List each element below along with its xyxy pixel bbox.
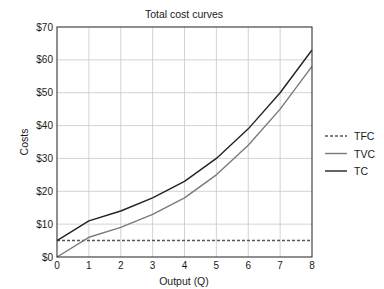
y-tick-label: $40 bbox=[36, 120, 53, 131]
legend-label-tfc: TFC bbox=[354, 130, 375, 142]
y-tick-label: $20 bbox=[36, 186, 53, 197]
x-tick-label: 1 bbox=[86, 260, 92, 271]
x-tick-label: 5 bbox=[214, 260, 220, 271]
x-axis-label: Output (Q) bbox=[159, 275, 209, 287]
x-tick-label: 8 bbox=[309, 260, 315, 271]
x-axis-ticks: 012345678 bbox=[54, 260, 315, 271]
y-tick-label: $0 bbox=[42, 252, 54, 263]
y-axis-label: Costs bbox=[18, 129, 30, 156]
x-tick-label: 2 bbox=[118, 260, 124, 271]
x-tick-label: 0 bbox=[54, 260, 60, 271]
y-axis-ticks: $0$10$20$30$40$50$60$70 bbox=[36, 22, 53, 263]
total-cost-chart: Total cost curves $0$10$20$30$40$50$60$7… bbox=[0, 0, 384, 289]
x-tick-label: 6 bbox=[245, 260, 251, 271]
chart-title: Total cost curves bbox=[145, 8, 223, 20]
y-tick-label: $60 bbox=[36, 54, 53, 65]
legend: TFCTVCTC bbox=[325, 130, 375, 177]
legend-label-tvc: TVC bbox=[354, 148, 375, 160]
y-tick-label: $70 bbox=[36, 22, 53, 33]
y-tick-label: $50 bbox=[36, 87, 53, 98]
y-tick-label: $10 bbox=[36, 219, 53, 230]
legend-label-tc: TC bbox=[354, 165, 368, 177]
grid bbox=[57, 27, 312, 257]
x-tick-label: 4 bbox=[182, 260, 188, 271]
x-tick-label: 7 bbox=[277, 260, 283, 271]
x-tick-label: 3 bbox=[150, 260, 156, 271]
y-tick-label: $30 bbox=[36, 153, 53, 164]
